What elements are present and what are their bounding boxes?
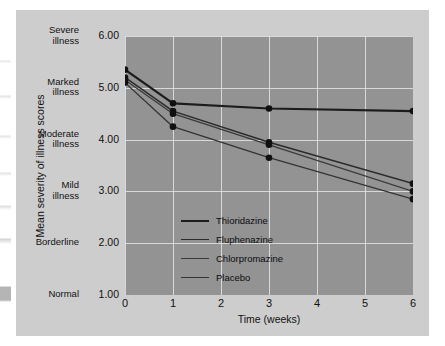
x-axis-title: Time (weeks)	[125, 313, 413, 325]
legend-item: Fluphenazine	[181, 230, 283, 249]
y-tick-category-line2: illness	[5, 36, 79, 47]
legend-line-swatch	[181, 220, 209, 222]
data-point-marker	[170, 100, 177, 107]
data-point-marker	[410, 196, 413, 203]
data-point-marker	[266, 141, 273, 148]
legend-line-swatch	[181, 277, 209, 278]
data-point-marker	[410, 108, 413, 115]
data-point-marker	[410, 188, 413, 195]
plot-area: ThioridazineFluphenazineChlorpromazinePl…	[125, 36, 413, 295]
series-line	[125, 80, 413, 191]
legend-item-label: Chlorpromazine	[216, 253, 283, 264]
x-tick-value: 6	[403, 297, 423, 309]
x-tick-value: 0	[115, 297, 135, 309]
data-point-marker	[266, 154, 273, 161]
x-tick-value: 5	[355, 297, 375, 309]
legend-item-label: Thioridazine	[216, 215, 268, 226]
chart-legend: ThioridazineFluphenazineChlorpromazinePl…	[181, 211, 283, 287]
series-line	[125, 70, 413, 111]
y-tick-category-label: Normal	[5, 289, 79, 300]
data-point-marker	[410, 180, 413, 187]
legend-item: Placebo	[181, 268, 283, 287]
y-tick-value: 5.00	[81, 82, 119, 93]
y-tick-value: 4.00	[81, 134, 119, 145]
y-axis-title: Mean severity of illness scores	[34, 56, 46, 276]
chart-figure-card: ThioridazineFluphenazineChlorpromazinePl…	[16, 10, 429, 336]
data-point-marker	[266, 105, 273, 112]
x-tick-value: 4	[307, 297, 327, 309]
y-tick-value: 6.00	[81, 30, 119, 41]
legend-line-swatch	[181, 258, 209, 259]
x-tick-value: 3	[259, 297, 279, 309]
x-tick-value: 1	[163, 297, 183, 309]
series-line	[125, 77, 413, 183]
legend-item-label: Fluphenazine	[216, 234, 273, 245]
y-tick-category-line1: Severe	[5, 25, 79, 36]
y-tick-category-line1: Normal	[5, 289, 79, 300]
figure-page: ThioridazineFluphenazineChlorpromazinePl…	[0, 0, 445, 346]
y-tick-value: 3.00	[81, 185, 119, 196]
legend-line-swatch	[181, 239, 209, 240]
legend-item-label: Placebo	[216, 272, 250, 283]
y-tick-category-label: Severeillness	[5, 25, 79, 46]
data-point-marker	[170, 110, 177, 117]
x-tick-value: 2	[211, 297, 231, 309]
legend-item: Chlorpromazine	[181, 249, 283, 268]
y-tick-value: 2.00	[81, 237, 119, 248]
y-tick-value: 1.00	[81, 289, 119, 300]
legend-item: Thioridazine	[181, 211, 283, 230]
data-point-marker	[170, 123, 177, 130]
